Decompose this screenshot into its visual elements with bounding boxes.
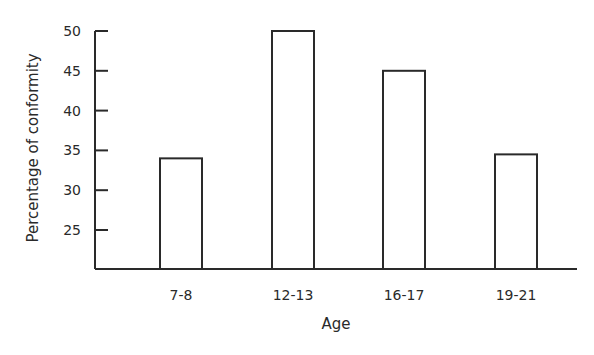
y-tick-label: 50 xyxy=(41,24,81,38)
x-tick-label: 16-17 xyxy=(384,287,425,303)
y-axis-label: Percentage of conformity xyxy=(24,53,42,242)
x-tick-label: 19-21 xyxy=(496,287,537,303)
x-tick-label: 7-8 xyxy=(170,287,193,303)
y-tick-label: 35 xyxy=(41,143,81,157)
bar-7-8 xyxy=(160,158,202,269)
y-tick-label: 45 xyxy=(41,64,81,78)
x-axis-label: Age xyxy=(321,315,350,333)
y-tick-label: 25 xyxy=(41,223,81,237)
y-tick-label: 30 xyxy=(41,183,81,197)
bar-19-21 xyxy=(495,154,537,269)
bar-16-17 xyxy=(383,71,425,269)
y-tick-label: 40 xyxy=(41,104,81,118)
bar-chart: Percentage of conformity Age 50 45 40 35… xyxy=(0,0,594,355)
x-tick-label: 12-13 xyxy=(273,287,314,303)
bar-12-13 xyxy=(272,31,314,269)
